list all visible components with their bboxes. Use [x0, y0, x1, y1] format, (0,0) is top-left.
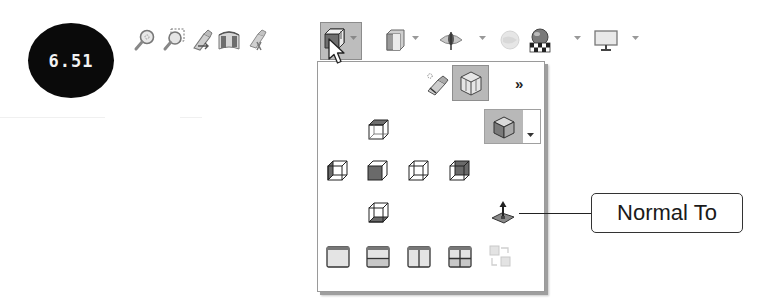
single-view-icon: [325, 244, 351, 270]
flyout-previous-view-button[interactable]: [424, 71, 450, 97]
zoom-to-area-button[interactable]: [161, 26, 187, 54]
chevron-down-icon: [412, 36, 419, 41]
link-views-icon: [487, 243, 513, 271]
chevron-down-icon: [632, 36, 639, 41]
view-front-button[interactable]: [365, 157, 391, 183]
hide-show-dropdown-caret[interactable]: [479, 36, 486, 41]
divider: [0, 117, 105, 118]
previous-view-icon: [424, 71, 450, 97]
cube-top-icon: [366, 116, 392, 142]
view-right-button[interactable]: [406, 157, 432, 183]
cube-back-icon: [447, 157, 473, 183]
single-view-button[interactable]: [325, 244, 351, 270]
view-settings-icon: [593, 26, 619, 54]
mouse-cursor-icon: [327, 38, 347, 70]
two-view-horizontal-icon: [365, 244, 391, 270]
expand-flyout-button[interactable]: »: [515, 75, 523, 92]
cube-bottom-icon: [366, 199, 392, 225]
edit-appearance-button[interactable]: [497, 26, 523, 54]
apply-scene-dropdown-caret[interactable]: [574, 36, 581, 41]
heads-up-view-toolbar: [0, 0, 761, 70]
chevron-down-icon: [527, 133, 534, 138]
view-orientation-flyout: »: [317, 61, 545, 292]
display-style-dropdown-caret[interactable]: [412, 36, 419, 41]
four-view-icon: [447, 244, 473, 270]
display-style-icon: [382, 26, 408, 54]
view-bottom-button[interactable]: [366, 199, 392, 225]
two-view-vertical-icon: [406, 244, 432, 270]
divider: [180, 117, 202, 118]
cube-right-icon: [406, 157, 432, 183]
zoom-to-fit-button[interactable]: [132, 26, 158, 54]
dynamic-annotation-icon: [244, 26, 270, 54]
view-settings-button[interactable]: [593, 26, 619, 54]
view-isometric-button[interactable]: [485, 110, 523, 143]
cube-front-icon: [365, 157, 391, 183]
two-view-horizontal-button[interactable]: [365, 244, 391, 270]
double-chevron-icon: »: [515, 75, 523, 92]
view-settings-dropdown-caret[interactable]: [632, 36, 639, 41]
apply-scene-icon: [527, 26, 553, 54]
normal-to-callout: Normal To: [591, 193, 743, 233]
zoom-to-area-icon: [161, 26, 187, 54]
section-view-icon: [216, 26, 242, 54]
chevron-down-icon: [574, 36, 581, 41]
four-view-button[interactable]: [447, 244, 473, 270]
edit-appearance-icon: [497, 26, 523, 54]
apply-scene-button[interactable]: [527, 26, 553, 54]
link-views-button[interactable]: [487, 243, 513, 271]
normal-to-button[interactable]: [490, 199, 516, 225]
callout-leader-line: [519, 213, 593, 214]
chevron-down-icon: [479, 36, 486, 41]
cube-left-icon: [325, 157, 351, 183]
isometric-dropdown-caret[interactable]: [527, 124, 534, 142]
view-selector-button[interactable]: [452, 65, 489, 101]
view-orientation-dropdown-caret[interactable]: [350, 36, 357, 41]
previous-view-button[interactable]: [188, 26, 214, 54]
section-view-button[interactable]: [216, 26, 242, 54]
view-left-button[interactable]: [325, 157, 351, 183]
hide-show-items-button[interactable]: [438, 26, 464, 54]
view-back-button[interactable]: [447, 157, 473, 183]
chevron-down-icon: [350, 36, 357, 41]
isometric-split-button[interactable]: [484, 109, 541, 144]
callout-label: Normal To: [617, 200, 717, 226]
previous-view-icon: [188, 26, 214, 54]
view-selector-icon: [458, 69, 484, 97]
hide-show-icon: [438, 26, 464, 54]
view-top-button[interactable]: [366, 116, 392, 142]
zoom-to-fit-icon: [132, 26, 158, 54]
dynamic-annotation-button[interactable]: [244, 26, 270, 54]
display-style-button[interactable]: [382, 26, 408, 54]
normal-to-icon: [490, 199, 516, 225]
two-view-vertical-button[interactable]: [406, 244, 432, 270]
isometric-icon: [491, 114, 517, 140]
